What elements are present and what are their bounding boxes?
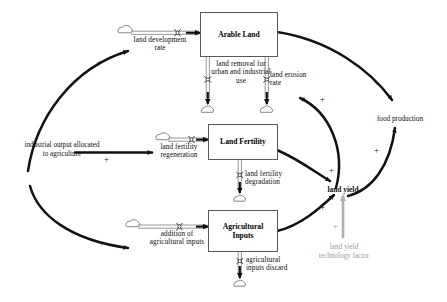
flow-label-land-development-rate: land development rate [122,36,198,53]
cloud-sink-land-fertility [234,195,246,201]
cloud-sink-land-erosion [260,106,272,112]
variable-land-yield[interactable]: land yield [311,186,375,195]
variable-land-yield-technology-factor: land yield technology factor [303,243,385,260]
link-io-to-aai [30,186,128,248]
flow-label-land-erosion-rate: land erosion rate [270,71,324,88]
flow-label-agricultural-inputs-discard: agricultural inputs discard [246,256,308,273]
polarity-inputs-to-yield: + [320,203,325,212]
diagram-canvas: Arable Land Land Fertility Agricultural … [0,0,447,302]
cloud-sink-agricultural-inputs [234,280,246,286]
flow-label-land-fertility-regeneration: land fertility regeneration [142,143,216,160]
cloud-source-land-fertility [156,133,170,140]
polarity-io-to-lfr: + [104,155,109,164]
polarity-io-to-ldr: + [97,58,102,67]
polarity-arable-to-food: + [374,78,379,87]
variable-food-production[interactable]: food production [358,115,442,124]
variable-industrial-output-allocated-to-agriculture[interactable]: industrial output allocated to agricultu… [8,141,116,158]
flow-agricultural-inputs-discard [234,250,246,286]
polarity-fertility-to-yield: + [329,166,334,175]
flow-land-development-rate [118,26,200,37]
flow-label-addition-of-agricultural-inputs: addition of agricultural inputs [131,230,223,247]
link-arable-to-food [277,32,392,100]
cloud-sink-land-removal [201,106,213,112]
polarity-io-to-aai: + [99,239,104,248]
polarity-tech-to-yield: + [333,222,338,231]
polarity-yield-to-erosion: + [320,95,325,104]
stock-land-fertility[interactable]: Land Fertility [208,124,278,160]
cloud-source-agricultural-inputs [126,220,140,227]
valve-land-fertility-degradation [236,172,243,178]
stock-arable-land[interactable]: Arable Land [200,12,278,57]
flow-land-fertility-regeneration [156,133,208,143]
link-inputs-to-yield [277,195,334,231]
flow-land-fertility-degradation [234,158,246,201]
flow-addition-of-agricultural-inputs [126,220,208,230]
flow-label-land-fertility-degradation: land fertility degradation [245,170,307,187]
cloud-source-land-development [118,26,133,33]
valve-agricultural-inputs-discard [236,258,243,264]
polarity-yield-to-food: + [374,146,379,155]
